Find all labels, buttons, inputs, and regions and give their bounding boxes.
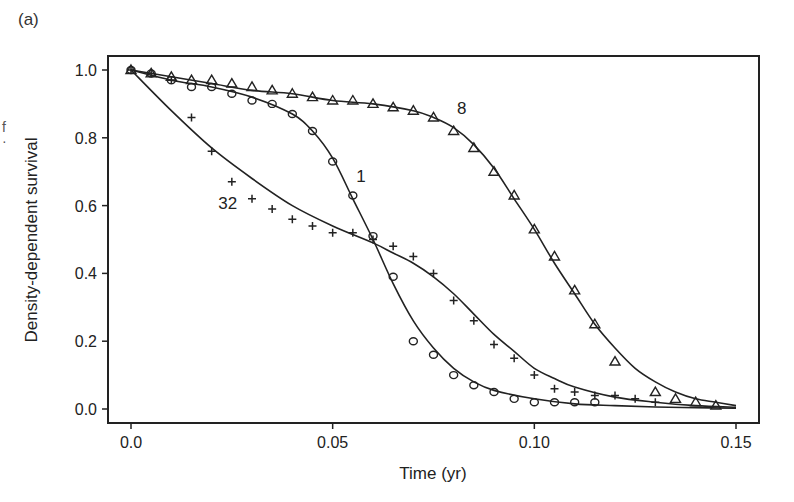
y-tick-label: 0.8 — [75, 130, 97, 147]
plus-marker — [248, 195, 256, 203]
plus-marker — [288, 215, 296, 223]
triangle-marker — [671, 394, 681, 403]
triangle-marker — [550, 251, 560, 260]
plus-marker — [631, 395, 639, 403]
survival-chart: 0.00.20.40.60.81.0 0.00.050.100.15 1832 — [0, 0, 794, 502]
plus-marker — [208, 147, 216, 155]
circle-marker — [430, 351, 438, 358]
triangle-marker — [207, 75, 217, 84]
plus-marker — [450, 297, 458, 305]
triangle-marker — [489, 167, 499, 176]
triangle-marker — [247, 82, 257, 91]
circle-marker — [470, 382, 478, 389]
circle-marker — [409, 338, 417, 345]
data-points — [126, 65, 721, 409]
triangle-marker — [610, 357, 620, 366]
circle-marker — [248, 97, 256, 104]
x-axis-ticks: 0.00.050.100.15 — [120, 423, 752, 451]
plus-marker — [490, 341, 498, 349]
y-tick-label: 0.2 — [75, 333, 97, 350]
circle-marker — [510, 395, 518, 402]
circle-marker — [188, 83, 196, 90]
y-axis-ticks: 0.00.20.40.60.81.0 — [75, 62, 108, 418]
plus-marker — [329, 229, 337, 237]
plus-marker — [571, 388, 579, 396]
plus-marker — [409, 252, 417, 260]
y-tick-label: 1.0 — [75, 62, 97, 79]
series-label-8: 8 — [457, 99, 466, 118]
x-tick-label: 0.0 — [120, 434, 142, 451]
x-tick-label: 0.15 — [720, 434, 751, 451]
triangle-marker — [650, 387, 660, 396]
triangle-marker — [227, 79, 237, 88]
x-tick-label: 0.10 — [519, 434, 550, 451]
series-label-32: 32 — [218, 194, 237, 213]
plot-frame — [108, 56, 759, 423]
y-axis-label: Density-dependent survival — [22, 137, 42, 342]
plus-marker — [389, 242, 397, 250]
plus-marker — [188, 113, 196, 121]
y-tick-label: 0.4 — [75, 265, 97, 282]
plus-marker — [510, 354, 518, 362]
plus-marker — [268, 205, 276, 213]
plus-marker — [309, 222, 317, 230]
x-axis-label: Time (yr) — [399, 464, 466, 484]
y-tick-label: 0.6 — [75, 198, 97, 215]
circle-marker — [530, 399, 538, 406]
x-tick-label: 0.05 — [317, 434, 348, 451]
plus-marker — [551, 385, 559, 393]
plus-marker — [530, 371, 538, 379]
plus-marker — [228, 178, 236, 186]
plus-marker — [651, 398, 659, 406]
y-tick-label: 0.0 — [75, 401, 97, 418]
circle-marker — [450, 372, 458, 379]
series-label-1: 1 — [356, 167, 365, 186]
plus-marker — [430, 269, 438, 277]
